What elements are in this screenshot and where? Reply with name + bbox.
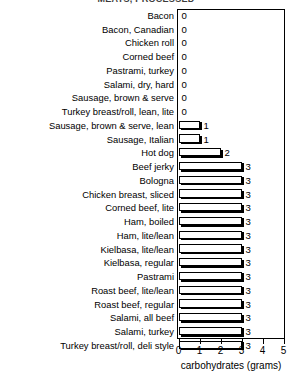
bar-row: Salami, all beef3 (0, 312, 285, 326)
bar-value-label: 0 (182, 25, 187, 35)
bar (179, 313, 242, 321)
bar-container: 0 (179, 105, 284, 119)
category-label: Ham, boiled (124, 217, 174, 227)
bar-value-label: 0 (182, 66, 187, 76)
x-tick-label: 2 (218, 345, 224, 356)
bar (179, 299, 242, 307)
x-tick (242, 339, 243, 344)
bar-value-label: 0 (182, 107, 187, 117)
category-label: Sausage, brown & serve (72, 93, 174, 103)
bar-value-label: 3 (246, 162, 251, 172)
bar-value-label: 0 (182, 52, 187, 62)
bar-row: Salami, dry, hard0 (0, 78, 285, 92)
bar-row: Hot dog2 (0, 147, 285, 161)
x-tick (284, 339, 285, 344)
bar-container: 0 (179, 23, 284, 37)
bar-row: Roast beef, lite/lean3 (0, 284, 285, 298)
bar-container: 3 (179, 270, 284, 284)
bar-container: 3 (179, 312, 284, 326)
bar (179, 203, 242, 211)
bar-container: 3 (179, 257, 284, 271)
bar-row: Bacon0 (0, 9, 285, 23)
bar-row: Sausage, brown & serve0 (0, 92, 285, 106)
bar-row: Pastrami3 (0, 270, 285, 284)
bar-row: Turkey breast/roll, lean, lite0 (0, 105, 285, 119)
bar-row: Ham, boiled3 (0, 215, 285, 229)
bar (179, 258, 242, 266)
category-label: Salami, all beef (110, 313, 174, 323)
category-label: Sausage, brown & serve, lean (49, 121, 174, 131)
bar-rows: Bacon0Bacon, Canadian0Chicken roll0Corne… (0, 9, 285, 339)
bar-row: Corned beef0 (0, 50, 285, 64)
bar-container: 3 (179, 325, 284, 339)
bar-value-label: 1 (204, 135, 209, 145)
bar-row: Bologna3 (0, 174, 285, 188)
bar-row: Beef jerky3 (0, 160, 285, 174)
bar-container: 0 (179, 9, 284, 23)
bar-container: 0 (179, 37, 284, 51)
bar-value-label: 3 (246, 176, 251, 186)
bar (179, 162, 242, 170)
bar-value-label: 3 (246, 300, 251, 310)
category-label: Bologna (140, 176, 174, 186)
bar-container: 2 (179, 147, 284, 161)
category-label: Ham, lite/lean (117, 231, 174, 241)
category-label: Kielbasa, regular (104, 258, 174, 268)
category-label: Bacon, Canadian (102, 25, 174, 35)
category-label: Pastrami, turkey (106, 66, 174, 76)
chart-figure: MEATS, PROCESSED Bacon0Bacon, Canadian0C… (0, 0, 298, 381)
x-tick (263, 339, 264, 344)
category-label: Kielbasa, lite/lean (101, 245, 175, 255)
bar-value-label: 3 (246, 231, 251, 241)
category-label: Turkey breast/roll, lean, lite (62, 107, 174, 117)
category-label: Chicken roll (125, 38, 174, 48)
bar-row: Sausage, brown & serve, lean1 (0, 119, 285, 133)
chart-title: MEATS, PROCESSED (0, 0, 292, 4)
x-tick-label: 3 (239, 345, 245, 356)
x-tick-label: 5 (281, 345, 287, 356)
bar-value-label: 3 (246, 327, 251, 337)
bar-value-label: 3 (246, 272, 251, 282)
bar-row: Kielbasa, regular3 (0, 257, 285, 271)
bar (179, 121, 200, 129)
bar-row: Roast beef, regular3 (0, 298, 285, 312)
bar-row: Chicken roll0 (0, 37, 285, 51)
bar-value-label: 3 (246, 190, 251, 200)
bar-row: Ham, lite/lean3 (0, 229, 285, 243)
bar-container: 0 (179, 64, 284, 78)
bar-container: 3 (179, 188, 284, 202)
x-axis-title: carbohydrates (grams) (177, 360, 285, 371)
bar (179, 286, 242, 294)
x-tick (221, 339, 222, 344)
bar-row: Corned beef, lite3 (0, 202, 285, 216)
bar-row: Pastrami, turkey0 (0, 64, 285, 78)
bar-container: 3 (179, 243, 284, 257)
bar (179, 327, 242, 335)
x-axis-tick-labels: 012345 (0, 345, 298, 357)
bar-container: 0 (179, 50, 284, 64)
bar-row: Sausage, Italian1 (0, 133, 285, 147)
bar (179, 244, 242, 252)
bar-value-label: 3 (246, 258, 251, 268)
bar-value-label: 0 (182, 11, 187, 21)
category-label: Salami, turkey (115, 327, 174, 337)
bar-container: 1 (179, 119, 284, 133)
bar-container: 1 (179, 133, 284, 147)
bar (179, 217, 242, 225)
category-label: Bacon (147, 11, 174, 21)
x-tick-label: 4 (260, 345, 266, 356)
bar-row: Kielbasa, lite/lean3 (0, 243, 285, 257)
bar-row: Salami, turkey3 (0, 325, 285, 339)
bar (179, 176, 242, 184)
bar-value-label: 1 (204, 121, 209, 131)
bar-container: 3 (179, 174, 284, 188)
x-tick-label: 1 (197, 345, 203, 356)
category-label: Salami, dry, hard (104, 80, 174, 90)
bar-container: 3 (179, 160, 284, 174)
bar-row: Bacon, Canadian0 (0, 23, 285, 37)
bar-value-label: 0 (182, 80, 187, 90)
bar-value-label: 3 (246, 286, 251, 296)
x-tick (200, 339, 201, 344)
x-tick (179, 339, 180, 344)
x-tick-label: 0 (176, 345, 182, 356)
